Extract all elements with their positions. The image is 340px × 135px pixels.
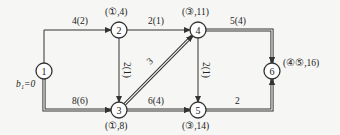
edge-label: 6(4) <box>148 96 164 107</box>
node-annotation: (③,11) <box>182 7 209 18</box>
network-diagram: 4(2)8(6)2(1)2(1)36(4)2(1)5(4)2 123456 b₁… <box>0 0 340 135</box>
edge-label: 2(1) <box>121 62 132 78</box>
node-label: 6 <box>270 66 275 77</box>
edge-label: 2(1) <box>148 16 164 27</box>
edge-label: 3 <box>145 56 155 67</box>
node-label: 4 <box>196 25 201 36</box>
node-annotation: b₁=0 <box>16 79 35 89</box>
node-label: 3 <box>117 105 122 116</box>
node-annotation: (③,14) <box>182 121 209 132</box>
node-label: 2 <box>117 25 122 36</box>
edge-label: 4(2) <box>72 16 88 27</box>
diagram-svg: 4(2)8(6)2(1)2(1)36(4)2(1)5(4)2 123456 b₁… <box>0 0 340 135</box>
edge-label: 8(6) <box>72 96 88 107</box>
edge-4-6-outer <box>206 30 272 63</box>
edge-label: 2 <box>235 96 240 106</box>
node-annotation: (①,4) <box>105 7 127 18</box>
node-annotation: (④⑤,16) <box>283 58 319 69</box>
node-label: 5 <box>196 105 201 116</box>
node-label: 1 <box>42 66 47 77</box>
edge-4-6-inner <box>206 30 272 63</box>
edge-1-2 <box>44 30 111 63</box>
node-annotation: (①,8) <box>105 121 127 132</box>
edge-label: 5(4) <box>230 16 246 27</box>
edge-label: 2(1) <box>200 62 211 78</box>
